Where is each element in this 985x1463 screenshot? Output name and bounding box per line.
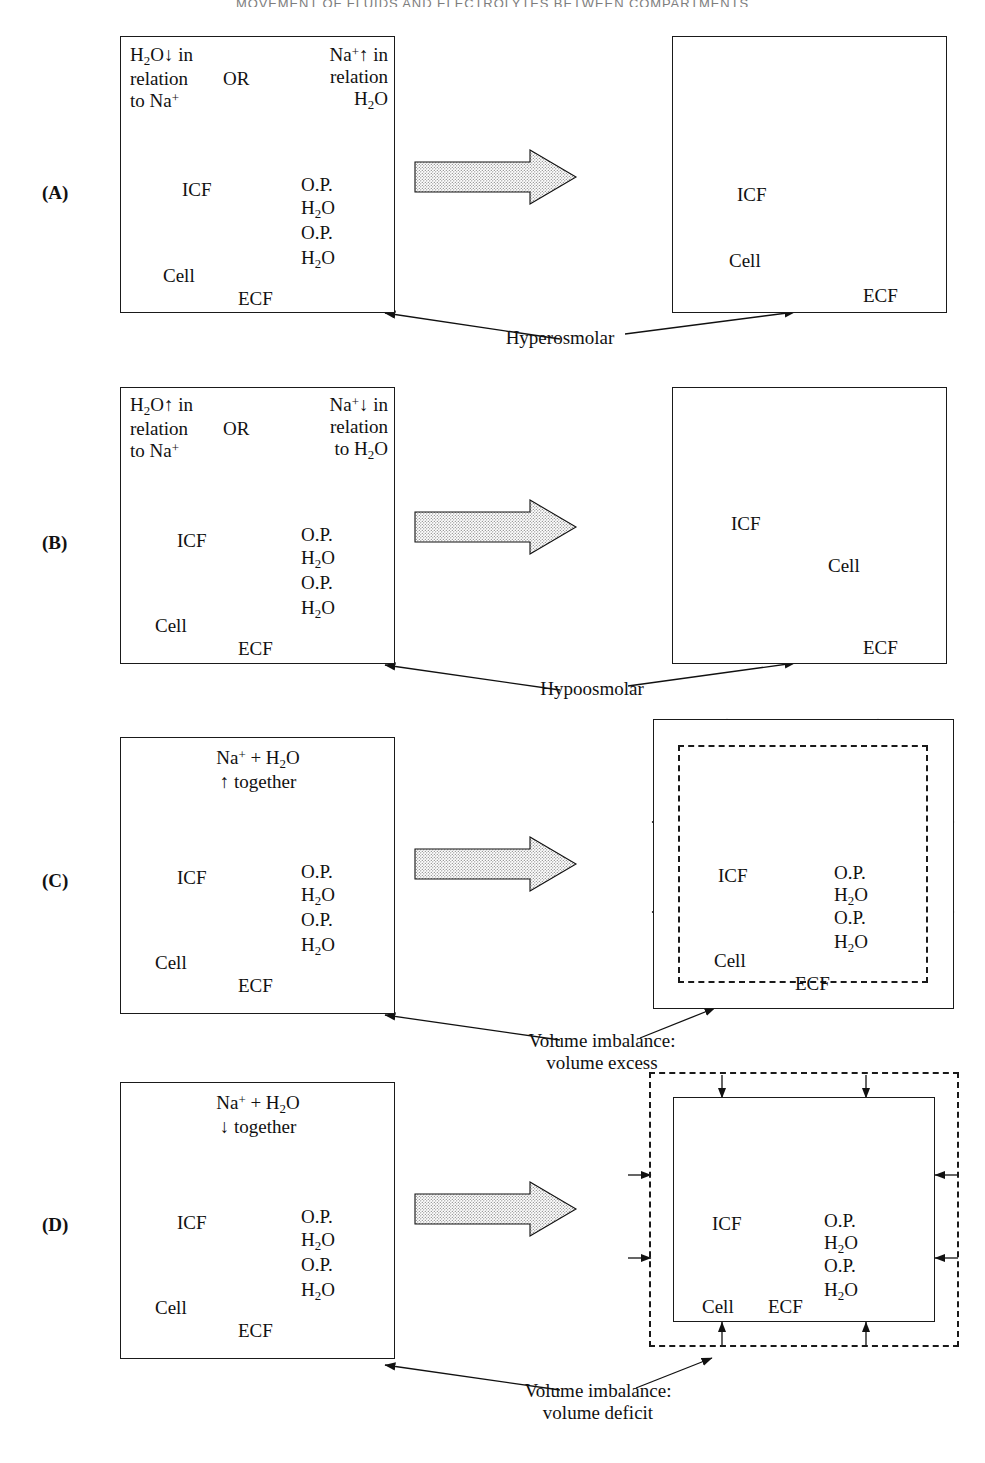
panel-c-after-icf-label: ICF [718, 865, 748, 887]
panel-a-cause-left: H2O↓ in relation to Na+ [130, 44, 193, 112]
panel-a-after-icf-label: ICF [737, 184, 767, 206]
panel-b-flow-label-4: H2O [301, 597, 335, 622]
panel-d-flow-label-4: H2O [301, 1279, 335, 1304]
cause-right-line-2: relation [290, 66, 388, 88]
panel-d-caption: Volume imbalance: volume deficit [525, 1380, 672, 1424]
panel-b-after-icf-label: ICF [731, 513, 761, 535]
cause-right-line-2: relation [280, 416, 388, 438]
panel-letter-a: (A) [42, 182, 68, 204]
panel-c-flow-label-3: O.P. [301, 909, 333, 931]
panel-c-cell-label: Cell [155, 952, 187, 974]
cause-left-line-1: H2O↓ in [130, 44, 193, 68]
panel-c-after-flow-label-4: H2O [834, 931, 868, 956]
panel-c-after-flow-label-1: O.P. [834, 862, 866, 884]
panel-b-after-compartment [672, 387, 947, 664]
cause-left-line-2: relation [130, 418, 193, 440]
panel-d-after-flow-label-1: O.P. [824, 1210, 856, 1232]
panel-a-caption: Hyperosmolar [506, 327, 615, 349]
panel-a-after-ecf-label: ECF [863, 285, 898, 307]
panel-d-cell-label: Cell [155, 1297, 187, 1319]
cause-right-line-3: H2O [290, 88, 388, 112]
panel-d-icf-label: ICF [177, 1212, 207, 1234]
panel-d-after-flow-label-4: H2O [824, 1279, 858, 1304]
panel-a-flow-label-3: O.P. [301, 222, 333, 244]
panel-b-after-cell-label: Cell [828, 555, 860, 577]
panel-b-or: OR [223, 418, 249, 440]
panel-a-after-compartment [672, 36, 947, 313]
panel-c-flow-label-2: H2O [301, 884, 335, 909]
panel-d-flow-label-2: H2O [301, 1229, 335, 1254]
panel-c-flow-label-1: O.P. [301, 861, 333, 883]
panel-c-icf-label: ICF [177, 867, 207, 889]
panel-a-after-cell-label: Cell [729, 250, 761, 272]
panel-a-icf-label: ICF [182, 179, 212, 201]
panel-d-caption-line-2: volume deficit [525, 1402, 672, 1424]
panel-c-caption-line-2: volume excess [529, 1052, 676, 1074]
panel-a-flow-label-4: H2O [301, 247, 335, 272]
cause-line-2: ↓ together [216, 1116, 300, 1138]
panel-b-cell-label: Cell [155, 615, 187, 637]
panel-letter-d: (D) [42, 1214, 68, 1236]
cause-right-line-1: Na+↑ in [290, 44, 388, 66]
cause-left-line-2: relation [130, 68, 193, 90]
panel-a-flow-label-1: O.P. [301, 174, 333, 196]
panel-a-cause-right: Na+↑ in relation H2O [290, 44, 388, 112]
cause-right-line-3: to H2O [280, 438, 388, 462]
cause-left-line-1: H2O↑ in [130, 394, 193, 418]
panel-c-after-flow-label-2: H2O [834, 884, 868, 909]
panel-a-flow-label-2: H2O [301, 197, 335, 222]
panel-b-icf-label: ICF [177, 530, 207, 552]
panel-d-after-flow-label-2: H2O [824, 1232, 858, 1257]
panel-a-ecf-label: ECF [238, 288, 273, 310]
panel-d-cause: Na+ + H2O ↓ together [216, 1092, 300, 1138]
cause-left-line-3: to Na+ [130, 90, 193, 112]
panel-b-cause-right: Na+↓ in relation to H2O [280, 394, 388, 462]
cause-line-2: ↑ together [216, 771, 300, 793]
panel-c-after-ecf-label: ECF [795, 973, 830, 995]
panel-d-after-icf-label: ICF [712, 1213, 742, 1235]
panel-b-ecf-label: ECF [238, 638, 273, 660]
panel-d-after-ecf-label: ECF [768, 1296, 803, 1318]
panel-b-caption: Hypoosmolar [540, 678, 643, 700]
panel-c-after-flow-label-3: O.P. [834, 907, 866, 929]
panel-c-ecf-label: ECF [238, 975, 273, 997]
panel-a-or: OR [223, 68, 249, 90]
cause-left-line-3: to Na+ [130, 440, 193, 462]
panel-b-flow-label-1: O.P. [301, 524, 333, 546]
panel-d-after-flow-label-3: O.P. [824, 1255, 856, 1277]
panel-a-cell-label: Cell [163, 265, 195, 287]
cause-right-line-1: Na+↓ in [280, 394, 388, 416]
panel-d-flow-label-3: O.P. [301, 1254, 333, 1276]
panel-c-cause: Na+ + H2O ↑ together [216, 747, 300, 793]
panel-c-flow-label-4: H2O [301, 934, 335, 959]
panel-b-cause-left: H2O↑ in relation to Na+ [130, 394, 193, 462]
panel-letter-b: (B) [42, 532, 67, 554]
panel-c-caption: Volume imbalance: volume excess [529, 1030, 676, 1074]
diagram-canvas: MOVEMENT OF FLUIDS AND ELECTROLYTES BETW… [0, 0, 985, 1463]
cause-line-1: Na+ + H2O [216, 1092, 300, 1116]
panel-d-flow-label-1: O.P. [301, 1206, 333, 1228]
panel-d-after-cell-label: Cell [702, 1296, 734, 1318]
panel-d-after-inner-compartment [673, 1097, 935, 1322]
panel-b-flow-label-3: O.P. [301, 572, 333, 594]
panel-c-after-inner-original-outline [678, 745, 928, 983]
panel-c-after-cell-label: Cell [714, 950, 746, 972]
panel-d-ecf-label: ECF [238, 1320, 273, 1342]
panel-d-caption-line-1: Volume imbalance: [525, 1380, 672, 1402]
panel-letter-c: (C) [42, 870, 68, 892]
panel-b-flow-label-2: H2O [301, 547, 335, 572]
panel-b-after-ecf-label: ECF [863, 637, 898, 659]
panel-c-caption-line-1: Volume imbalance: [529, 1030, 676, 1052]
cause-line-1: Na+ + H2O [216, 747, 300, 771]
